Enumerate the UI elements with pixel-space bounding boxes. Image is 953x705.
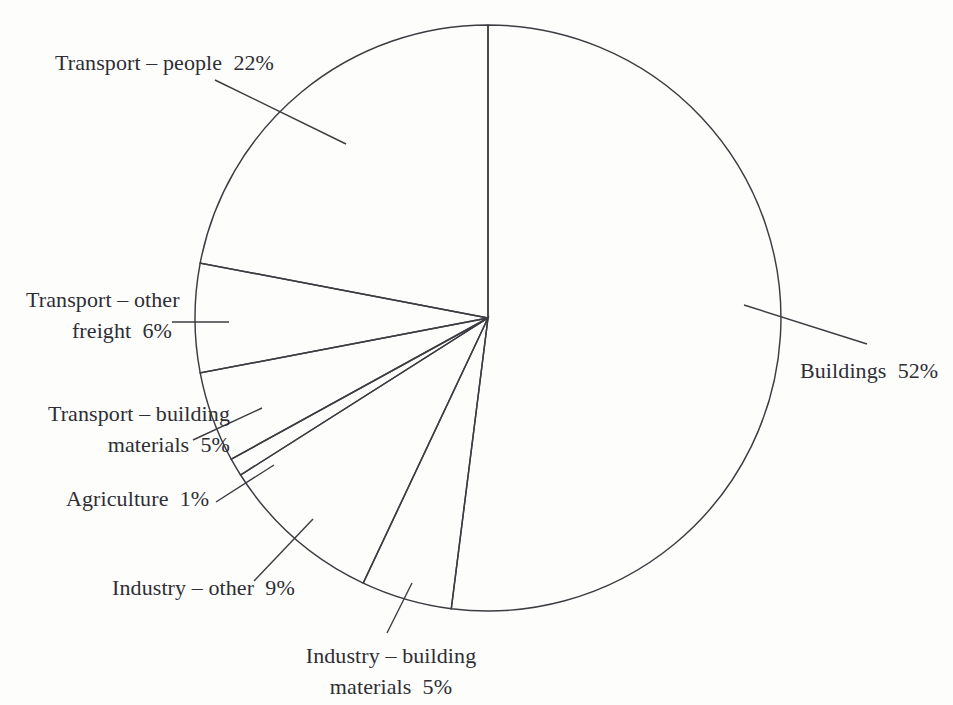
pie-label-buildings: Buildings 52%	[800, 355, 938, 386]
pie-label-transport-other-freight: Transport – otherfreight 6%	[26, 284, 172, 346]
leader-line-transport-people	[215, 80, 346, 144]
pie-label-transport-people: Transport – people 22%	[55, 47, 274, 78]
pie-label-industry-building-materials-line2: materials 5%	[330, 674, 452, 699]
pie-slice-buildings[interactable]	[451, 25, 781, 611]
pie-label-transport-building-materials-line1: Transport – building	[48, 401, 230, 426]
pie-label-transport-other-freight-line2: freight 6%	[72, 318, 172, 343]
pie-label-industry-other: Industry – other 9%	[112, 572, 295, 603]
pie-slice-transport-other-freight[interactable]	[195, 263, 488, 373]
pie-label-transport-other-freight-line1: Transport – other	[26, 287, 180, 312]
pie-label-industry-building-materials-line1: Industry – building	[306, 643, 477, 668]
pie-chart-figure: Transport – people 22% Transport – other…	[0, 0, 953, 705]
leader-line-industry-building-materials	[387, 583, 412, 633]
pie-slice-agriculture[interactable]	[231, 318, 488, 475]
leader-line-agriculture	[216, 465, 274, 502]
pie-label-agriculture: Agriculture 1%	[66, 483, 209, 514]
pie-label-transport-building-materials: Transport – buildingmaterials 5%	[8, 398, 230, 460]
pie-slice-transport-building-materials[interactable]	[200, 318, 488, 459]
pie-slice-industry-building-materials[interactable]	[363, 318, 488, 609]
pie-label-industry-building-materials: Industry – buildingmaterials 5%	[293, 640, 489, 702]
pie-label-transport-building-materials-line2: materials 5%	[108, 432, 230, 457]
leader-line-buildings	[744, 305, 867, 344]
